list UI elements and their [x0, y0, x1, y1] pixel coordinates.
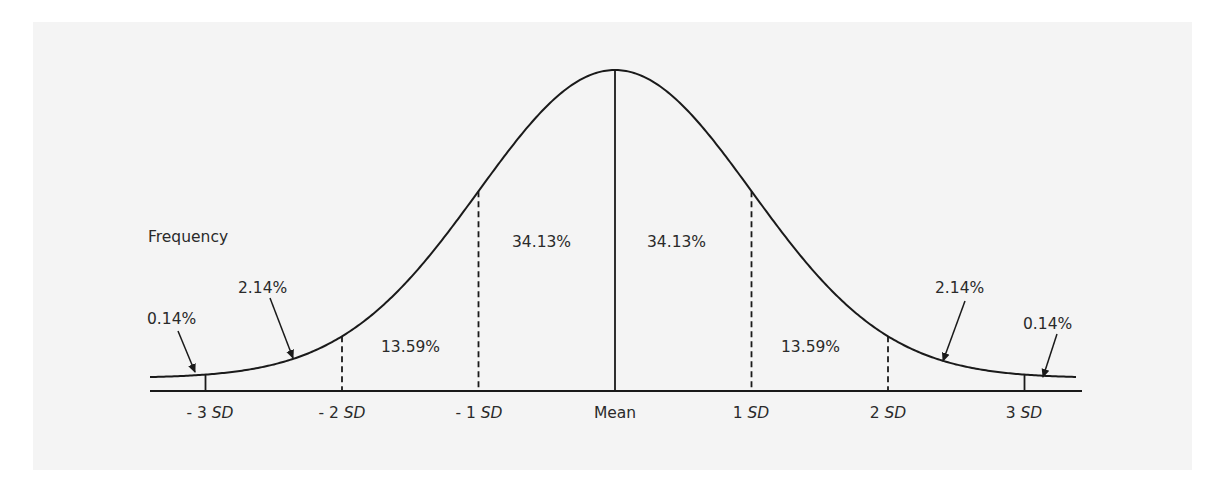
region-label-right-tail: 0.14% — [1023, 315, 1072, 333]
arrow-icon — [943, 301, 965, 361]
y-axis-label: Frequency — [148, 228, 228, 246]
arrow-icon — [1043, 334, 1057, 377]
region-label-neg-2sd-neg-1sd: 13.59% — [381, 338, 440, 356]
sd-marker-lines — [206, 70, 1025, 391]
region-label-pos-1sd-pos-2sd: 13.59% — [781, 338, 840, 356]
arrow-icon — [270, 298, 293, 358]
bell-curve — [150, 70, 1076, 377]
region-label-neg-3sd-neg-2sd: 2.14% — [238, 279, 287, 297]
region-label-left-tail: 0.14% — [147, 310, 196, 328]
tick-label-pos-3sd: 3 SD — [1006, 404, 1043, 422]
region-label-pos-2sd-pos-3sd: 2.14% — [935, 279, 984, 297]
tick-label-pos-1sd: 1 SD — [733, 404, 770, 422]
arrow-icon — [178, 331, 195, 372]
normal-distribution-diagram: 34.13% 34.13% 13.59% 13.59% 2.14% 2.14% … — [0, 0, 1223, 486]
tick-label-mean: Mean — [594, 404, 636, 422]
region-label-mean-pos-1sd: 34.13% — [647, 233, 706, 251]
tick-label-neg-2sd: - 2 SD — [318, 404, 365, 422]
tick-label-neg-3sd: - 3 SD — [186, 404, 233, 422]
tick-label-pos-2sd: 2 SD — [870, 404, 907, 422]
region-label-neg-1sd-mean: 34.13% — [512, 233, 571, 251]
tick-label-neg-1sd: - 1 SD — [455, 404, 502, 422]
